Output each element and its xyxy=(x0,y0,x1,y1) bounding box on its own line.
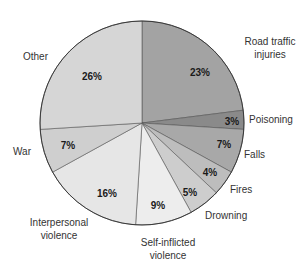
category-label-falls: Falls xyxy=(244,149,265,160)
percent-label-falls: 7% xyxy=(217,139,232,150)
category-label-poisoning: Poisoning xyxy=(249,114,293,125)
category-label-self-inflicted-violence: Self-inflictedviolence xyxy=(141,237,195,261)
percent-label-war: 7% xyxy=(61,140,76,151)
category-label-drowning: Drowning xyxy=(205,210,247,221)
percent-label-interpersonal-violence: 16% xyxy=(97,188,117,199)
pie-chart: 23%3%7%4%5%9%16%7%26% Road trafficinjuri… xyxy=(0,0,303,267)
category-label-road-traffic-injuries: Road trafficinjuries xyxy=(245,36,296,60)
percent-label-other: 26% xyxy=(82,71,102,82)
category-label-war: War xyxy=(13,146,32,157)
percent-label-self-inflicted-violence: 9% xyxy=(151,200,166,211)
category-label-other: Other xyxy=(23,51,49,62)
percent-label-drowning: 5% xyxy=(183,187,198,198)
percent-label-poisoning: 3% xyxy=(225,116,240,127)
percent-label-road-traffic-injuries: 23% xyxy=(190,67,210,78)
category-label-fires: Fires xyxy=(230,184,252,195)
pie-slices xyxy=(40,21,244,225)
category-label-interpersonal-violence: Interpersonalviolence xyxy=(30,217,88,241)
percent-label-fires: 4% xyxy=(203,167,218,178)
